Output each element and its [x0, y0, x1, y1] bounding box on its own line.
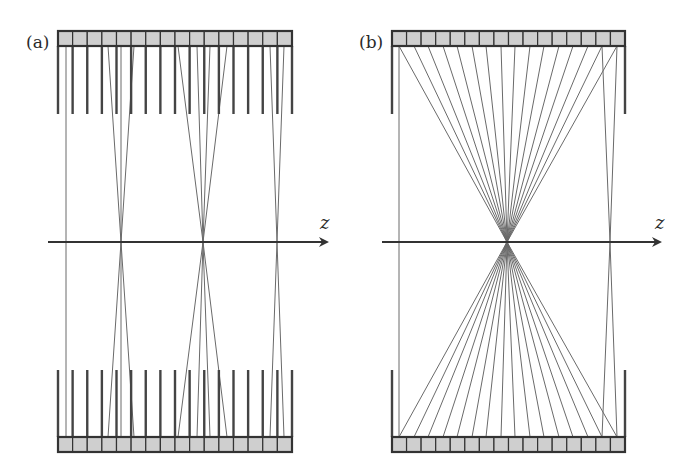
ray-line	[507, 46, 515, 242]
detector-element	[190, 31, 205, 46]
ray-line	[108, 242, 121, 437]
ray-line	[602, 242, 610, 437]
detector-element	[87, 31, 102, 46]
ray-line	[197, 242, 203, 437]
ray-line	[507, 242, 588, 437]
detector-element	[421, 437, 436, 452]
detector-element	[610, 437, 625, 452]
detector-element	[146, 437, 161, 452]
detector-element	[204, 437, 219, 452]
figure: (a) z (b) z	[0, 0, 694, 473]
detector-element	[234, 31, 249, 46]
detector-element	[131, 437, 146, 452]
panel-a-diagram	[48, 31, 327, 452]
detector-array-bottom	[392, 437, 625, 452]
detector-element	[450, 437, 465, 452]
detector-element	[581, 31, 596, 46]
detector-element	[538, 31, 553, 46]
ray-line	[507, 46, 544, 242]
panel-b-label: (b)	[359, 34, 383, 51]
detector-element	[58, 437, 73, 452]
detector-element	[552, 437, 567, 452]
detector-element	[523, 437, 538, 452]
ray-line	[507, 46, 617, 242]
detector-element	[581, 437, 596, 452]
detector-element	[219, 31, 234, 46]
detector-element	[552, 31, 567, 46]
detector-element	[596, 437, 611, 452]
detector-element	[73, 437, 88, 452]
detector-element	[392, 437, 407, 452]
detector-element	[567, 31, 582, 46]
detector-array-top	[392, 31, 625, 46]
ray-line	[610, 242, 617, 437]
detector-element	[263, 31, 278, 46]
detector-element	[479, 31, 494, 46]
ray-line	[507, 46, 573, 242]
detector-element	[117, 437, 132, 452]
detector-element	[277, 437, 292, 452]
detector-element	[263, 437, 278, 452]
detector-element	[436, 437, 451, 452]
detector-element	[567, 437, 582, 452]
panel-b-z-axis-label: z	[655, 214, 664, 232]
ray-line	[602, 46, 610, 242]
detector-element	[596, 31, 611, 46]
ray-line	[414, 242, 507, 437]
detector-array-bottom	[58, 437, 292, 452]
ray-line	[507, 46, 559, 242]
detector-element	[87, 437, 102, 452]
ray-line	[507, 46, 602, 242]
detector-element	[175, 437, 190, 452]
detector-element	[175, 31, 190, 46]
ray-line	[428, 242, 507, 437]
detector-element	[190, 437, 205, 452]
detector-element	[450, 31, 465, 46]
detector-element	[204, 31, 219, 46]
panel-a-z-axis-label: z	[320, 214, 329, 232]
ray-line	[108, 46, 121, 242]
ray-line	[507, 242, 559, 437]
detector-element	[538, 437, 553, 452]
ray-line	[507, 46, 588, 242]
ray-line	[428, 46, 507, 242]
detector-element	[131, 31, 146, 46]
ray-line	[414, 46, 507, 242]
ray-line	[457, 46, 507, 242]
ray-line	[507, 46, 530, 242]
ray-line	[610, 46, 617, 242]
ray-line	[507, 242, 544, 437]
detector-element	[392, 31, 407, 46]
ray-line	[457, 242, 507, 437]
ray-line	[507, 242, 515, 437]
ray-line	[270, 46, 277, 242]
detector-element	[509, 31, 524, 46]
ray-line	[507, 242, 573, 437]
detector-element	[610, 31, 625, 46]
ray-line	[197, 46, 203, 242]
detector-element	[494, 437, 509, 452]
detector-element	[436, 31, 451, 46]
panel-a-label: (a)	[26, 34, 49, 51]
detector-element	[277, 31, 292, 46]
detector-array-top	[58, 31, 292, 46]
detector-element	[234, 437, 249, 452]
detector-element	[479, 437, 494, 452]
detector-element	[102, 437, 117, 452]
detector-element	[102, 31, 117, 46]
detector-element	[146, 31, 161, 46]
detector-element	[494, 31, 509, 46]
detector-element	[465, 31, 480, 46]
detector-element	[248, 31, 263, 46]
detector-element	[509, 437, 524, 452]
ray-line	[507, 242, 617, 437]
ray-line	[270, 242, 277, 437]
detector-element	[73, 31, 88, 46]
ray-line	[507, 242, 530, 437]
detector-element	[465, 437, 480, 452]
detector-element	[117, 31, 132, 46]
detector-element	[160, 437, 175, 452]
detector-element	[407, 437, 422, 452]
detector-element	[58, 31, 73, 46]
panel-b-diagram	[382, 31, 660, 452]
